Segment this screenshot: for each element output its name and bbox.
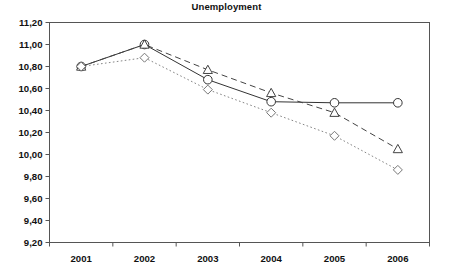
series-lines <box>81 45 398 170</box>
y-tick-label: 11,00 <box>19 39 42 50</box>
y-tick-label: 9,60 <box>24 193 43 204</box>
x-tick-label: 2003 <box>197 253 218 264</box>
data-point-marker <box>394 99 403 108</box>
data-point-marker <box>203 85 212 94</box>
y-tick-label: 9,40 <box>24 215 43 226</box>
y-tick-label: 10,80 <box>18 61 42 72</box>
x-tick-label: 2002 <box>134 253 155 264</box>
data-point-marker <box>330 99 339 108</box>
y-axis-ticks: 11,2011,0010,8010,6010,4010,2010,009,809… <box>18 17 49 248</box>
data-point-marker <box>330 131 339 140</box>
data-point-marker <box>267 88 276 96</box>
data-point-marker <box>393 165 402 174</box>
plot-frame <box>50 23 430 243</box>
y-tick-label: 10,40 <box>18 105 42 116</box>
data-point-marker <box>267 97 276 106</box>
data-point-marker <box>267 108 276 117</box>
series-line-1 <box>81 45 398 103</box>
y-tick-label: 10,20 <box>18 127 42 138</box>
x-tick-label: 2006 <box>387 253 408 264</box>
y-tick-label: 10,60 <box>18 83 42 94</box>
y-tick-label: 11,20 <box>19 17 42 28</box>
series-line-2 <box>81 45 398 150</box>
data-point-marker <box>203 65 212 73</box>
series-line-3 <box>81 58 398 170</box>
unemployment-chart: Unemployment 11,2011,0010,8010,6010,4010… <box>0 0 453 274</box>
data-point-marker <box>204 75 213 84</box>
y-tick-label: 9,80 <box>24 171 43 182</box>
data-point-marker <box>330 108 339 116</box>
data-point-marker <box>393 144 402 152</box>
x-tick-label: 2001 <box>70 253 92 264</box>
y-tick-label: 9,20 <box>24 237 43 248</box>
data-point-marker <box>140 53 149 62</box>
x-axis-ticks: 200120022003200420052006 <box>50 243 430 264</box>
y-tick-label: 10,00 <box>18 149 42 160</box>
chart-plot-area: 11,2011,0010,8010,6010,4010,2010,009,809… <box>0 0 453 274</box>
x-tick-label: 2005 <box>324 253 346 264</box>
x-tick-label: 2004 <box>260 253 282 264</box>
